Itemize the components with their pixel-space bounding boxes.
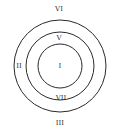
concentric-circles-diagram: VI V I II VII III bbox=[0, 0, 116, 139]
label-i: I bbox=[59, 62, 62, 70]
label-ii: II bbox=[16, 62, 22, 70]
label-vii: VII bbox=[55, 94, 67, 102]
label-vi: VI bbox=[54, 5, 63, 13]
label-v: V bbox=[55, 34, 62, 42]
label-iii: III bbox=[56, 119, 65, 127]
